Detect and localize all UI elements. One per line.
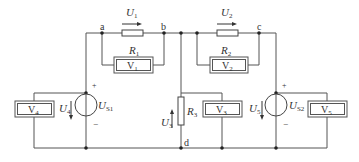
wires [34, 33, 327, 148]
node-us2-bottom-dot [274, 146, 278, 150]
node-d-dot [179, 146, 183, 150]
wire-v2-right [248, 33, 259, 65]
voltage-u3: U3 [161, 109, 174, 130]
resistor-r1: R1 [122, 30, 143, 58]
svg-text:−: − [283, 119, 288, 129]
svg-text:+: + [92, 81, 97, 90]
node-v3-bottom-dot [220, 146, 224, 150]
node-a-label: a [100, 21, 105, 32]
wire-v2-left [197, 33, 210, 65]
svg-text:R2: R2 [220, 44, 232, 58]
node-c-label: c [257, 21, 262, 32]
voltage-source-us1: + − US1 [75, 81, 114, 129]
svg-text:R1: R1 [128, 44, 140, 58]
voltmeter-v5: V5 [308, 101, 347, 117]
svg-text:U5: U5 [249, 102, 261, 116]
svg-text:US1: US1 [98, 99, 114, 113]
resistor-r3: R3 [178, 97, 198, 125]
node-d-label: d [184, 137, 189, 148]
svg-text:US2: US2 [289, 99, 305, 113]
node-b-label: b [161, 21, 166, 32]
node-middle-dot [179, 31, 183, 35]
svg-text:U3: U3 [161, 116, 173, 130]
voltage-u4: U4 [59, 101, 73, 120]
voltage-source-us2: + − US2 [265, 81, 305, 129]
voltage-u1: U1 [122, 6, 142, 26]
svg-text:U4: U4 [59, 102, 71, 116]
svg-text:U1: U1 [126, 6, 138, 20]
voltmeter-v2: V2 [210, 57, 248, 73]
voltage-u2: U2 [217, 6, 237, 26]
circuit-diagram: R1 R2 R3 V1 V2 V3 V4 V5 + − US1 [0, 0, 359, 162]
svg-text:−: − [93, 119, 98, 129]
voltmeter-v3: V3 [203, 101, 242, 117]
svg-text:R3: R3 [186, 105, 198, 119]
node-junction-dot [195, 31, 199, 35]
svg-text:U2: U2 [221, 6, 233, 20]
wire-v3-top [181, 93, 222, 101]
voltmeter-v4: V4 [15, 101, 54, 117]
wire-v1-right [153, 33, 164, 65]
resistor-r2: R2 [217, 30, 238, 58]
voltmeter-v1: V1 [114, 57, 153, 73]
svg-text:+: + [282, 81, 287, 90]
node-us1-bottom-dot [84, 146, 88, 150]
voltage-u5: U5 [249, 101, 264, 120]
wire-v1-left [102, 33, 114, 65]
